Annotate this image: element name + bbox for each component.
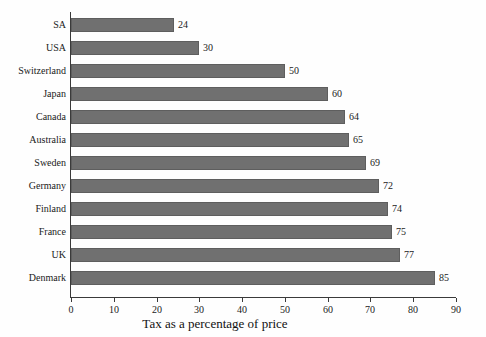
- x-axis-tick: [71, 298, 72, 302]
- x-axis-line: [70, 297, 456, 298]
- bar: [71, 225, 392, 239]
- bar-row: 72: [0, 174, 486, 197]
- x-axis-tick: [157, 298, 158, 302]
- bar-row: 74: [0, 197, 486, 220]
- bar-value-label: 65: [353, 132, 363, 147]
- bar-row: 65: [0, 128, 486, 151]
- bar-row: 77: [0, 243, 486, 266]
- bar-value-label: 85: [439, 270, 449, 285]
- bars-layer: 243050606465697274757785: [0, 0, 486, 337]
- bar-row: 50: [0, 59, 486, 82]
- x-axis-tick-label: 50: [280, 303, 290, 316]
- y-axis-line: [70, 12, 71, 298]
- bar-value-label: 69: [370, 155, 380, 170]
- x-axis-title: Tax as a percentage of price: [0, 316, 486, 332]
- bar-value-label: 64: [349, 109, 359, 124]
- bar: [71, 248, 400, 262]
- bar-row: 75: [0, 220, 486, 243]
- bar: [71, 179, 379, 193]
- x-axis-tick-label: 0: [69, 303, 74, 316]
- x-axis-tick-label: 80: [408, 303, 418, 316]
- bar-chart: SAUSASwitzerlandJapanCanadaAustraliaSwed…: [0, 0, 486, 337]
- x-axis-tick-label: 40: [237, 303, 247, 316]
- x-axis-tick-label: 30: [194, 303, 204, 316]
- bar-value-label: 60: [332, 86, 342, 101]
- x-axis-tick: [199, 298, 200, 302]
- bar-row: 69: [0, 151, 486, 174]
- x-axis-tick: [285, 298, 286, 302]
- x-axis-tick-label: 70: [365, 303, 375, 316]
- bar-row: 85: [0, 266, 486, 289]
- bar: [71, 202, 388, 216]
- x-axis-title-text: Tax as a percentage of price: [142, 316, 287, 332]
- bar: [71, 87, 328, 101]
- bar-value-label: 75: [396, 224, 406, 239]
- bar-value-label: 72: [383, 178, 393, 193]
- bar-row: 30: [0, 36, 486, 59]
- bar: [71, 41, 199, 55]
- x-axis-tick: [413, 298, 414, 302]
- x-axis-tick-label: 60: [323, 303, 333, 316]
- bar: [71, 156, 366, 170]
- x-axis-tick-label: 90: [451, 303, 461, 316]
- bar-value-label: 77: [404, 247, 414, 262]
- bar: [71, 133, 349, 147]
- x-axis-tick: [456, 298, 457, 302]
- x-axis-tick-label: 10: [109, 303, 119, 316]
- bar-row: 24: [0, 13, 486, 36]
- bar-value-label: 50: [289, 63, 299, 78]
- bar-value-label: 74: [392, 201, 402, 216]
- bar-value-label: 30: [203, 40, 213, 55]
- x-axis-tick: [370, 298, 371, 302]
- bar: [71, 18, 174, 32]
- bar-value-label: 24: [178, 17, 188, 32]
- bar-row: 64: [0, 105, 486, 128]
- x-axis-tick-label: 20: [152, 303, 162, 316]
- bar-row: 60: [0, 82, 486, 105]
- bar: [71, 110, 345, 124]
- x-axis-tick: [328, 298, 329, 302]
- x-axis-tick: [242, 298, 243, 302]
- bar: [71, 64, 285, 78]
- x-axis-tick: [114, 298, 115, 302]
- bar: [71, 271, 435, 285]
